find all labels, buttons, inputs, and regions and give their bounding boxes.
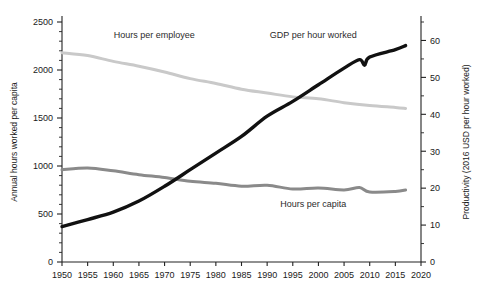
x-tick-label-1970: 1970 bbox=[155, 270, 175, 280]
x-tick-label-1955: 1955 bbox=[78, 270, 98, 280]
y-tick-label-2500: 2500 bbox=[33, 17, 53, 27]
x-tick-label-1990: 1990 bbox=[257, 270, 277, 280]
x-tick-label-2020: 2020 bbox=[411, 270, 431, 280]
series-label-hours-per-employee: Hours per employee bbox=[114, 30, 195, 40]
series-label-hours-per-capita: Hours per capita bbox=[280, 199, 346, 209]
x-tick-label-2015: 2015 bbox=[385, 270, 405, 280]
y2-tick-label-20: 20 bbox=[430, 183, 440, 193]
y2-tick-label-10: 10 bbox=[430, 220, 440, 230]
y2-tick-label-0: 0 bbox=[430, 257, 435, 267]
y-axis-left-title: Annual hours worked per capita bbox=[9, 82, 19, 202]
x-tick-label-2010: 2010 bbox=[360, 270, 380, 280]
y-tick-label-1000: 1000 bbox=[33, 161, 53, 171]
y2-tick-label-30: 30 bbox=[430, 147, 440, 157]
x-tick-label-1980: 1980 bbox=[206, 270, 226, 280]
series-label-gdp-per-hour-worked: GDP per hour worked bbox=[270, 30, 357, 40]
y-axis-right-title: Productivity (2016 USD per hour worked) bbox=[461, 64, 471, 219]
chart-background bbox=[0, 0, 483, 293]
y-tick-label-0: 0 bbox=[48, 257, 53, 267]
x-tick-label-1950: 1950 bbox=[52, 270, 72, 280]
y2-tick-label-40: 40 bbox=[430, 110, 440, 120]
chart-container: 1950195519601965197019751980198519901995… bbox=[0, 0, 483, 293]
x-tick-label-1975: 1975 bbox=[180, 270, 200, 280]
x-tick-label-2005: 2005 bbox=[334, 270, 354, 280]
y2-tick-label-60: 60 bbox=[430, 36, 440, 46]
dual-axis-line-chart: 1950195519601965197019751980198519901995… bbox=[0, 0, 483, 293]
x-tick-label-1995: 1995 bbox=[283, 270, 303, 280]
y-tick-label-1500: 1500 bbox=[33, 113, 53, 123]
x-tick-label-1960: 1960 bbox=[103, 270, 123, 280]
y-tick-label-500: 500 bbox=[38, 209, 53, 219]
y-tick-label-2000: 2000 bbox=[33, 65, 53, 75]
x-tick-label-2000: 2000 bbox=[308, 270, 328, 280]
y2-tick-label-50: 50 bbox=[430, 73, 440, 83]
x-tick-label-1985: 1985 bbox=[231, 270, 251, 280]
x-tick-label-1965: 1965 bbox=[129, 270, 149, 280]
